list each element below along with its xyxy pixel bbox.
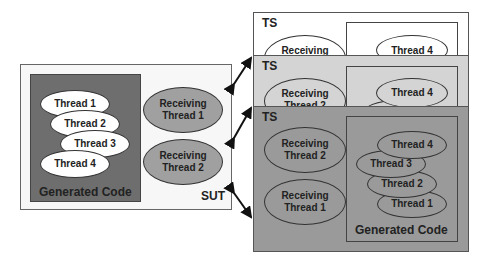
arrow-sut-ts-front (234, 193, 251, 217)
arrow-sut-ts-middle (234, 108, 251, 138)
arrow-sut-ts-back (234, 58, 251, 84)
connection-arrows (0, 0, 487, 267)
